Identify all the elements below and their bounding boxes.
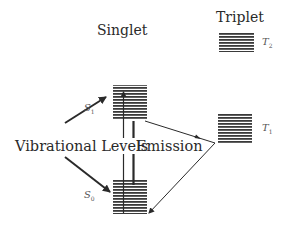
- s1-vibrational-levels: [113, 85, 147, 120]
- s0-vibrational-levels: [113, 179, 147, 214]
- t2-symbol: T: [262, 36, 269, 47]
- singlet-heading: Singlet: [97, 22, 147, 38]
- triplet-heading: Triplet: [216, 9, 264, 25]
- t1-label: T1: [262, 122, 273, 135]
- s1-symbol: S: [84, 102, 91, 113]
- t1-symbol: T: [262, 122, 269, 133]
- t2-label: T2: [262, 36, 273, 49]
- t1-subscript: 1: [269, 128, 273, 135]
- t2-vibrational-levels: [219, 33, 254, 52]
- s0-symbol: S: [84, 189, 91, 200]
- emission-label: Emission: [136, 138, 203, 154]
- s0-label: S0: [84, 189, 95, 202]
- s1-label: S1: [84, 102, 95, 115]
- s1-subscript: 1: [91, 108, 95, 115]
- s0-subscript: 0: [91, 195, 95, 202]
- pointer-arrow-to-s0: [65, 157, 110, 192]
- t1-vibrational-levels: [218, 113, 252, 143]
- vibrational-levels-label: Vibrational Levels: [15, 138, 149, 154]
- t2-subscript: 2: [269, 42, 273, 49]
